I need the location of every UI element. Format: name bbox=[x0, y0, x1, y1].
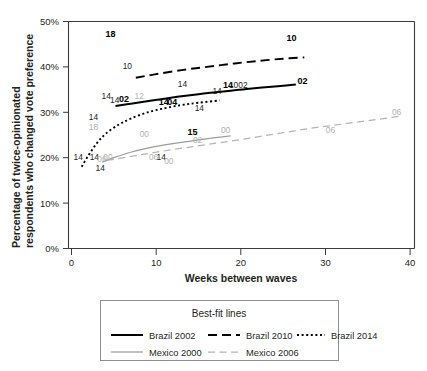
x-axis-title: Weeks between waves bbox=[185, 272, 298, 284]
point-label-17: 14 bbox=[74, 152, 84, 162]
point-label-11: 02 bbox=[298, 76, 308, 86]
y-tick-label-20: 20% bbox=[40, 152, 60, 163]
point-label-0: 18 bbox=[105, 29, 115, 39]
chart-figure: Percentage of twice-opinionated responde… bbox=[0, 0, 427, 371]
point-label-30: 06 bbox=[392, 107, 402, 117]
point-label-7: 12 bbox=[135, 91, 145, 101]
y-tick-label-30: 30% bbox=[40, 107, 60, 118]
y-tick-label-10: 10% bbox=[40, 198, 60, 209]
point-label-13: 04 bbox=[167, 97, 177, 107]
plot-axes bbox=[69, 22, 415, 249]
point-label-16: 18 bbox=[89, 122, 99, 132]
legend-title: Best-fit lines bbox=[192, 308, 246, 319]
legend-label-mexico-2006: Mexico 2006 bbox=[246, 348, 299, 358]
point-label-20: 00 bbox=[103, 152, 113, 162]
point-label-1: 10 bbox=[287, 33, 297, 43]
point-label-group: 1810101414140212141410020214041414181414… bbox=[74, 29, 402, 173]
point-label-3: 14 bbox=[178, 79, 188, 89]
y-tick-label-50: 50% bbox=[40, 16, 60, 27]
series-group bbox=[82, 57, 402, 166]
point-label-14: 14 bbox=[195, 103, 205, 113]
point-label-10: 1002 bbox=[229, 80, 248, 90]
point-label-8: 14 bbox=[212, 86, 222, 96]
y-axis-title-line1: Percentage of twice-opinionated bbox=[10, 86, 22, 248]
point-label-2: 10 bbox=[123, 61, 133, 71]
x-tick-label-10: 10 bbox=[151, 257, 162, 268]
x-tick-label-30: 30 bbox=[320, 257, 331, 268]
legend: Best-fit lines Brazil 2002 Brazil 2010 B… bbox=[101, 301, 378, 361]
y-tick-label-40: 40% bbox=[40, 61, 60, 72]
point-label-29: 06 bbox=[326, 125, 336, 135]
point-label-25: 00 bbox=[164, 156, 174, 166]
series-line-brazil-2010 bbox=[136, 57, 304, 77]
y-axis-title-line2: respondents who changed vote preference bbox=[23, 34, 35, 248]
x-axis-ticks: 0 10 20 30 40 bbox=[69, 249, 416, 269]
y-axis-ticks: 0% 10% 20% 30% 40% 50% bbox=[40, 16, 69, 254]
point-label-22: 00 bbox=[140, 129, 150, 139]
y-tick-label-0: 0% bbox=[45, 243, 59, 254]
point-label-27: 02 bbox=[193, 135, 203, 145]
point-label-28: 00 bbox=[221, 125, 231, 135]
legend-label-brazil-2014: Brazil 2014 bbox=[331, 331, 378, 341]
x-tick-label-40: 40 bbox=[405, 257, 416, 268]
point-label-15: 14 bbox=[89, 112, 99, 122]
x-tick-label-20: 20 bbox=[236, 257, 247, 268]
legend-label-brazil-2010: Brazil 2010 bbox=[246, 331, 293, 341]
y-axis-title: Percentage of twice-opinionated responde… bbox=[10, 34, 35, 248]
chart-svg: Percentage of twice-opinionated responde… bbox=[0, 0, 427, 371]
point-label-21: 14 bbox=[96, 163, 106, 173]
x-tick-label-0: 0 bbox=[69, 257, 74, 268]
legend-label-mexico-2000: Mexico 2000 bbox=[149, 348, 202, 358]
legend-label-brazil-2002: Brazil 2002 bbox=[149, 331, 196, 341]
point-label-6: 02 bbox=[119, 94, 129, 104]
